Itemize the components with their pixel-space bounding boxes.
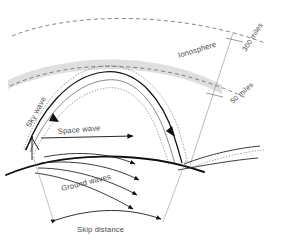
skip-distance-leader-right xyxy=(163,160,186,222)
receiver-wave-curve-dotted xyxy=(190,150,264,168)
sky-wave-path-inner-dotted xyxy=(34,88,169,165)
antenna-tip xyxy=(31,136,33,138)
label-sky-wave: Sky wave xyxy=(24,95,48,129)
label-altitude-300-miles: 300 miles xyxy=(240,21,265,53)
diagram-canvas: Ionosphere 300 miles 50 miles Sky wave S… xyxy=(0,0,292,245)
space-wave-arrow xyxy=(41,136,133,138)
tick-300-miles xyxy=(226,38,243,42)
ionosphere-band xyxy=(8,60,222,94)
ground-wave-1 xyxy=(44,153,135,164)
receiver-wave-curve-2 xyxy=(178,158,258,170)
skip-distance-arrow xyxy=(56,211,161,221)
skip-distance-leader-left xyxy=(33,156,54,222)
radio-propagation-diagram: Ionosphere 300 miles 50 miles Sky wave S… xyxy=(0,0,292,245)
tick-50-miles xyxy=(206,93,223,97)
sky-wave-arrow-returning xyxy=(166,126,175,137)
sky-wave-path-inner xyxy=(30,80,175,164)
label-skip-distance: Skip distance xyxy=(77,225,124,234)
label-ionosphere: Ionosphere xyxy=(177,40,217,60)
label-altitude-50-miles: 50 miles xyxy=(228,80,255,106)
transmitter-antenna xyxy=(25,138,39,160)
label-space-wave: Space wave xyxy=(57,123,100,136)
boundary-300-miles-arc xyxy=(12,18,265,43)
